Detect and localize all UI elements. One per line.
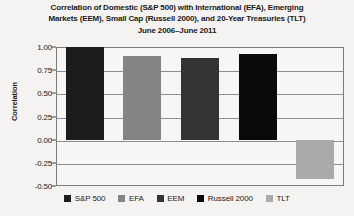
legend-swatch-icon: [157, 195, 164, 202]
legend-item[interactable]: EFA: [118, 194, 143, 203]
y-axis-tick-label: -0.25: [0, 158, 52, 167]
y-axis-tick-label: 0.00: [0, 135, 52, 144]
chart-title-line-3: June 2006–June 2011: [0, 25, 354, 36]
legend-item-label: TLT: [276, 194, 289, 203]
y-axis-title: Correlation: [10, 72, 19, 132]
legend-swatch-icon: [64, 195, 71, 202]
bar: [123, 56, 161, 139]
chart-title-line-2: Markets (EEM), Small Cap (Russell 2000),…: [0, 13, 354, 24]
bars-group: [56, 47, 344, 186]
y-axis-tick-label: 1.00: [0, 43, 52, 52]
legend-item-label: EEM: [167, 194, 184, 203]
legend-item[interactable]: Russell 2000: [197, 194, 253, 203]
y-axis-tick-label: -0.50: [0, 182, 52, 191]
y-axis-tick-label: 0.25: [0, 112, 52, 121]
legend-item-label: S&P 500: [75, 194, 106, 203]
legend-item[interactable]: EEM: [157, 194, 185, 203]
bar-chart: Correlation of Domestic (S&P 500) with I…: [0, 0, 354, 216]
bar: [66, 47, 104, 140]
legend-item[interactable]: S&P 500: [64, 194, 105, 203]
legend-item-label: EFA: [129, 194, 144, 203]
chart-title-line-1: Correlation of Domestic (S&P 500) with I…: [0, 2, 354, 13]
chart-legend: S&P 500EFAEEMRussell 2000TLT: [0, 194, 354, 203]
bar: [296, 140, 334, 179]
legend-item-label: Russell 2000: [208, 194, 253, 203]
bar: [181, 58, 219, 140]
y-axis-tick-label: 0.50: [0, 89, 52, 98]
chart-title: Correlation of Domestic (S&P 500) with I…: [0, 2, 354, 36]
y-axis-tick-label: 0.75: [0, 66, 52, 75]
legend-item[interactable]: TLT: [266, 194, 290, 203]
legend-swatch-icon: [266, 195, 273, 202]
legend-swatch-icon: [118, 195, 125, 202]
legend-swatch-icon: [197, 195, 204, 202]
bar: [239, 54, 277, 139]
